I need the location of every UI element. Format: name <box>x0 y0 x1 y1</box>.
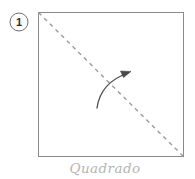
origami-step-diagram: 1 Quadrado <box>0 0 195 179</box>
diagram-canvas: 1 Quadrado <box>0 0 195 179</box>
step-number-label: 1 <box>16 16 22 28</box>
step-number-badge: 1 <box>10 13 28 31</box>
diagram-caption: Quadrado <box>70 160 141 176</box>
